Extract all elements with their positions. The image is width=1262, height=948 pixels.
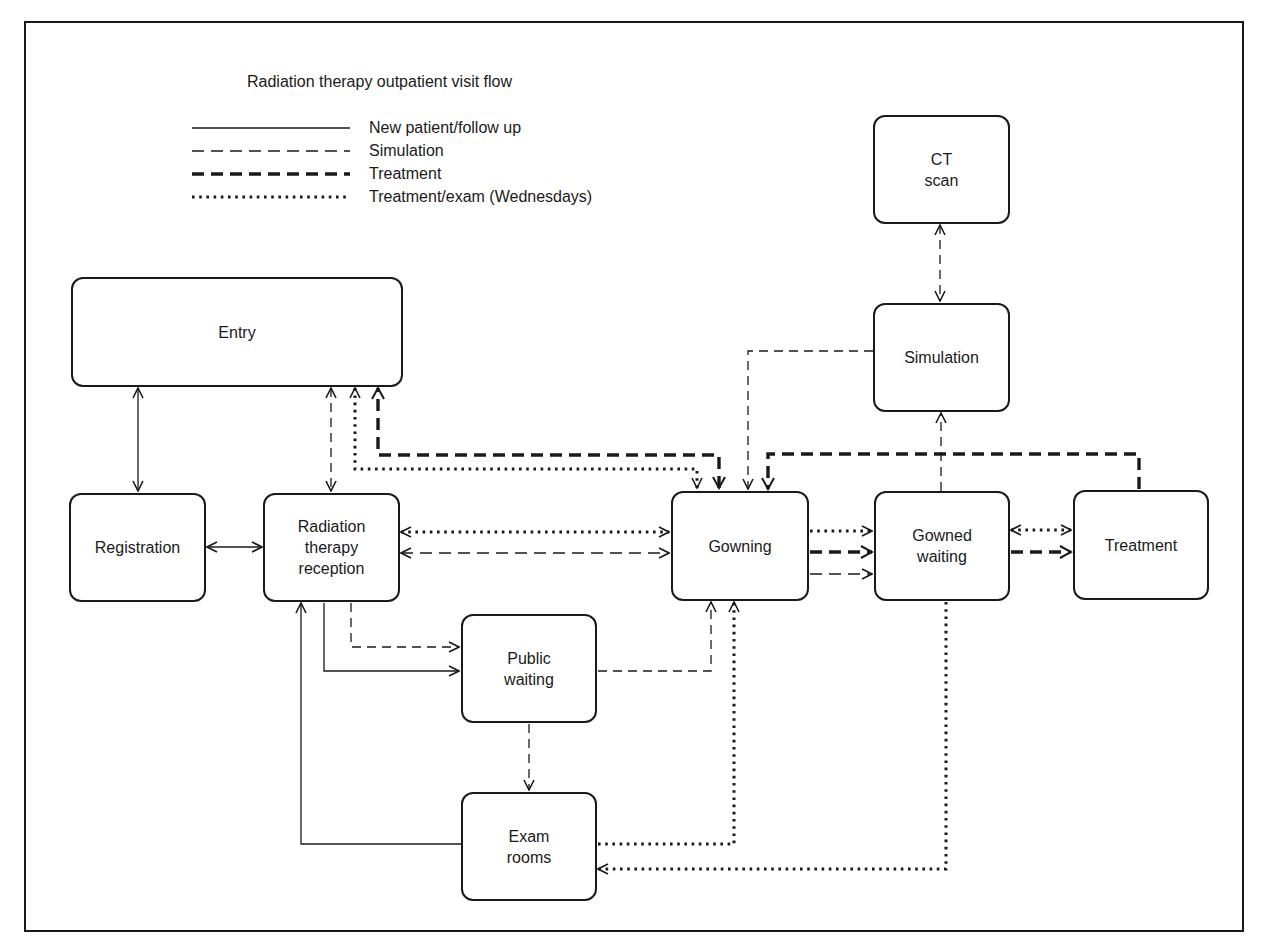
node-exam-rooms: Exam rooms	[461, 792, 597, 901]
node-rt-reception: Radiation therapy reception	[263, 493, 400, 602]
legend-label-simulation: Simulation	[369, 142, 444, 160]
legend-label-new-patient: New patient/follow up	[369, 119, 521, 137]
node-entry: Entry	[71, 277, 403, 387]
legend-lines	[192, 128, 350, 197]
node-registration: Registration	[69, 493, 206, 602]
node-treatment: Treatment	[1073, 490, 1209, 600]
legend-label-treatment: Treatment	[369, 165, 441, 183]
flow-diagram-canvas	[0, 0, 1262, 948]
node-public-waiting: Public waiting	[461, 614, 597, 723]
node-gowning: Gowning	[671, 491, 809, 601]
legend-label-wednesdays: Treatment/exam (Wednesdays)	[369, 188, 592, 206]
node-simulation: Simulation	[873, 303, 1010, 412]
node-gowned-waiting: Gowned waiting	[874, 491, 1010, 601]
node-ct-scan: CT scan	[873, 115, 1010, 224]
